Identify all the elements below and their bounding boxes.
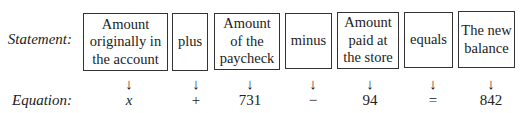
down-arrow-icon: ↓ xyxy=(246,76,254,93)
box-text: Amount originally in the account xyxy=(86,16,166,69)
equation-minus: − xyxy=(309,92,317,109)
statement-box-original-amount: Amount originally in the account xyxy=(83,13,168,71)
statement-box-minus: minus xyxy=(285,13,332,69)
equation-term-94: 94 xyxy=(363,92,378,109)
statement-box-store-payment: Amount paid at the store xyxy=(337,12,399,69)
statement-label: Statement: xyxy=(0,31,72,48)
down-arrow-icon: ↓ xyxy=(309,76,317,93)
statement-box-plus: plus xyxy=(172,13,208,71)
statement-box-new-balance: The new balance xyxy=(458,11,515,68)
down-arrow-icon: ↓ xyxy=(366,76,374,93)
down-arrow-icon: ↓ xyxy=(192,76,200,93)
equation-plus: + xyxy=(192,92,200,109)
statement-box-paycheck: Amount of the paycheck xyxy=(214,13,280,70)
equation-term-842: 842 xyxy=(480,92,503,109)
down-arrow-icon: ↓ xyxy=(125,76,133,93)
equation-term-x: x xyxy=(126,92,133,109)
box-text: minus xyxy=(291,32,326,50)
box-text: plus xyxy=(178,33,202,51)
box-text: Amount of the paycheck xyxy=(216,15,278,68)
down-arrow-icon: ↓ xyxy=(487,76,495,93)
box-text: The new balance xyxy=(461,22,513,57)
box-text: equals xyxy=(410,31,447,49)
equation-label: Equation: xyxy=(0,92,72,109)
box-text: Amount paid at the store xyxy=(339,14,397,67)
statement-box-equals: equals xyxy=(404,12,453,68)
down-arrow-icon: ↓ xyxy=(429,76,437,93)
equation-term-731: 731 xyxy=(239,92,262,109)
equation-equals: = xyxy=(429,92,437,109)
